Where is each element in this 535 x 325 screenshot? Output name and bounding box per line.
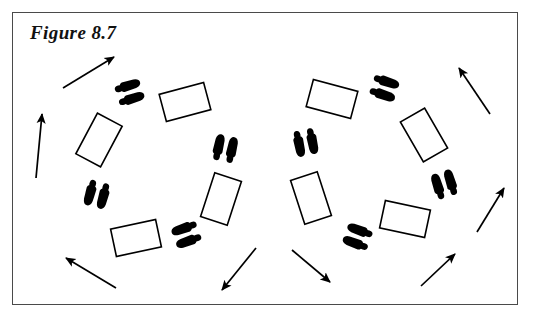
arrow-bottom-left xyxy=(66,258,116,288)
left-ring-footprints-right xyxy=(211,133,239,164)
arrow-bottom-mid-r xyxy=(292,250,330,282)
right-ring-rectangle-top-right xyxy=(400,108,447,162)
right-ring-rectangle-top-left xyxy=(306,80,358,119)
left-ring-rectangle-top-left xyxy=(76,113,122,167)
left-ring-footprints-top xyxy=(113,77,145,107)
left-ring-footprints-left xyxy=(82,179,111,210)
figure-container: Figure 8.7 xyxy=(0,0,535,325)
left-ring-rectangle-top-right xyxy=(159,83,211,122)
diagram-canvas xyxy=(0,0,535,325)
arrow-bottom-mid-l xyxy=(222,248,256,290)
left-ring-rectangle-bottom-right xyxy=(201,173,242,225)
right-ring-footprints-bottom xyxy=(341,222,374,253)
arrow-bottom-right xyxy=(421,254,455,286)
left-ring-rectangle-bottom-left xyxy=(111,220,162,257)
right-ring-footprints-top xyxy=(368,73,400,103)
right-ring-rectangle-bottom-left xyxy=(291,172,332,224)
arrow-right-mid xyxy=(477,188,504,232)
right-ring-footprints-left xyxy=(292,127,320,158)
left-ring-footprints-bottom xyxy=(170,219,203,250)
arrow-top-right xyxy=(459,68,490,114)
arrow-left-up xyxy=(36,114,42,178)
right-ring xyxy=(291,73,460,253)
right-ring-rectangle-bottom-right xyxy=(380,201,431,238)
arrow-top-left xyxy=(63,57,114,88)
arrows-layer xyxy=(36,57,504,290)
left-ring xyxy=(76,77,242,256)
rings-layer xyxy=(76,73,460,257)
right-ring-footprints-right xyxy=(429,168,459,200)
